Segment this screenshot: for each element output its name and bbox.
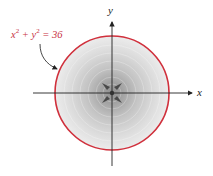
- circle-equation-label: x2 + y2 = 36: [11, 27, 63, 40]
- x-axis-label: x: [197, 86, 202, 98]
- label-pointer-arrow: [40, 44, 57, 69]
- y-axis-label: y: [108, 4, 113, 16]
